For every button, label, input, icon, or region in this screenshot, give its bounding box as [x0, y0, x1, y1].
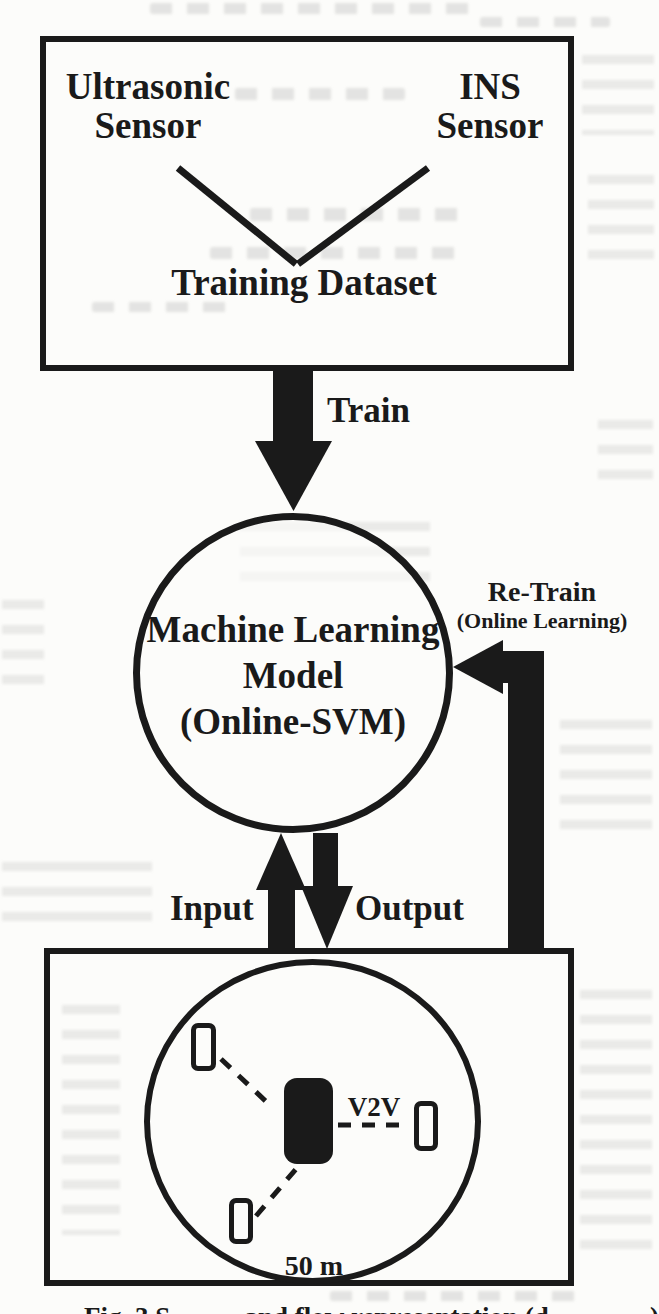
figure-caption: Fig. 3 S_____ and flow representation (d…: [84, 1302, 659, 1314]
bleed-through-artifact: [2, 862, 152, 930]
retrain-label: Re-Train (Online Learning): [449, 576, 635, 633]
bleed-through-artifact: [2, 600, 44, 685]
output-label: Output: [355, 889, 464, 929]
neighbor-vehicle-right: [414, 1101, 438, 1151]
bleed-through-artifact: [150, 3, 480, 14]
sensor-merge-lines: [46, 42, 568, 365]
bleed-through-artifact: [480, 17, 610, 27]
ego-vehicle: [284, 1078, 333, 1164]
train-label: Train: [327, 391, 410, 431]
neighbor-vehicle-bottom-left: [229, 1198, 253, 1244]
ml-model-circle: Machine Learning Model (Online-SVM): [133, 513, 453, 833]
range-label: 50 m: [274, 1250, 354, 1282]
sensor-fusion-box: Ultrasonic Sensor INS Sensor Training Da…: [40, 36, 574, 371]
training-dataset-label: Training Dataset: [154, 261, 454, 304]
bleed-through-artifact: [588, 175, 654, 270]
ml-model-label: Machine Learning Model (Online-SVM): [147, 601, 440, 745]
bleed-through-artifact: [582, 55, 654, 135]
input-label: Input: [170, 889, 254, 929]
neighbor-vehicle-top-left: [191, 1023, 216, 1071]
bleed-through-artifact: [580, 990, 652, 1250]
v2v-scenario-box: V2V 50 m: [44, 948, 574, 1286]
bleed-through-artifact: [330, 1291, 580, 1301]
scanned-figure-page: Ultrasonic Sensor INS Sensor Training Da…: [0, 0, 659, 1314]
bleed-through-artifact: [598, 420, 653, 485]
bleed-through-artifact: [560, 720, 652, 840]
v2v-label: V2V: [343, 1092, 405, 1123]
